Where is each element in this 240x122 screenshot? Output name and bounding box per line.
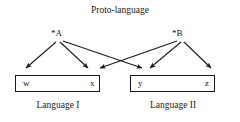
arrow-a-to-y: [63, 41, 142, 68]
arrow-a-to-x: [60, 42, 88, 68]
arrow-b-to-z: [184, 42, 211, 68]
language-caption-2: Language II: [123, 101, 223, 111]
proto-node-b: *B: [172, 29, 183, 38]
reflex-x: x: [90, 79, 95, 88]
arrow-a-to-w: [26, 42, 56, 68]
reflex-w: w: [23, 79, 30, 88]
reflex-y: y: [138, 79, 143, 88]
proto-node-a: *A: [51, 29, 62, 38]
language-caption-1: Language I: [8, 101, 108, 111]
reflex-z: z: [205, 79, 209, 88]
arrow-b-to-y: [150, 42, 181, 68]
proto-language-diagram: Proto-language *A *B w x y z Language I …: [0, 0, 240, 122]
